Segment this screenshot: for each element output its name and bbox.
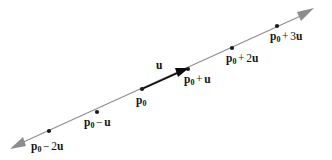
point-marker [140, 87, 144, 91]
label-p0: p0 [136, 95, 147, 108]
label-p0-minus-u: p0−u [84, 117, 111, 130]
vector-u-group [142, 68, 189, 89]
label-vector: u [204, 73, 211, 85]
label-operator: + [195, 73, 205, 85]
label-subscript: 0 [38, 145, 42, 154]
label-p0-plus-3u: p0+3u [270, 31, 303, 44]
label-operator: + [281, 30, 291, 42]
label-operator: + [237, 52, 247, 64]
label-operator: − [42, 140, 52, 152]
label-subscript: 0 [91, 121, 95, 130]
vector-u-shaft [142, 71, 182, 89]
point-marker [47, 129, 51, 133]
diagram-canvas [0, 0, 332, 160]
label-p0-plus-2u: p0+2u [226, 53, 259, 66]
number-line-group [10, 8, 314, 149]
label-subscript: 0 [191, 78, 195, 87]
vector-u-label: u [156, 60, 162, 72]
label-vector: u [252, 52, 259, 64]
label-operator: − [95, 116, 105, 128]
label-p0-plus-u: p0+u [184, 74, 211, 87]
label-subscript: 0 [277, 35, 281, 44]
arrowhead-right-icon [297, 8, 314, 21]
label-vector: u [57, 140, 64, 152]
label-vector: u [296, 30, 303, 42]
label-vector: u [104, 116, 111, 128]
label-subscript: 0 [233, 57, 237, 66]
vector-line-diagram: u p0−2u p0−u p0 p0+u p0+2u p0+3u [0, 0, 332, 160]
label-p0-minus-2u: p0−2u [31, 141, 64, 154]
point-marker [186, 67, 190, 71]
label-subscript: 0 [143, 99, 147, 108]
point-marker [95, 110, 99, 114]
point-marker [275, 24, 279, 28]
point-marker [230, 46, 234, 50]
arrowhead-left-icon [10, 137, 26, 149]
